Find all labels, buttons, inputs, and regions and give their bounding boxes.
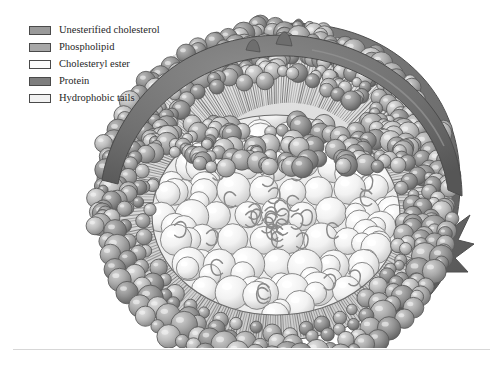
legend-item-hydrophobic-tails: Hydrophobic tails [29,90,160,107]
legend-label: Protein [59,76,89,87]
color-swatch-icon [29,77,51,86]
legend-item-cholesteryl-ester: Cholesteryl ester [29,56,160,73]
bottom-divider [13,349,490,350]
color-swatch-icon [29,94,51,103]
color-swatch-icon [29,26,51,35]
legend-item-phospholipid: Phospholipid [29,39,160,56]
legend: Unesterified cholesterol Phospholipid Ch… [29,22,160,107]
legend-label: Cholesteryl ester [59,59,130,70]
legend-label: Phospholipid [59,42,114,53]
legend-item-unesterified-cholesterol: Unesterified cholesterol [29,22,160,39]
figure-canvas: Unesterified cholesterol Phospholipid Ch… [0,0,490,372]
legend-label: Hydrophobic tails [59,93,135,104]
color-swatch-icon [29,43,51,52]
legend-item-protein: Protein [29,73,160,90]
color-swatch-icon [29,60,51,69]
legend-label: Unesterified cholesterol [59,25,160,36]
